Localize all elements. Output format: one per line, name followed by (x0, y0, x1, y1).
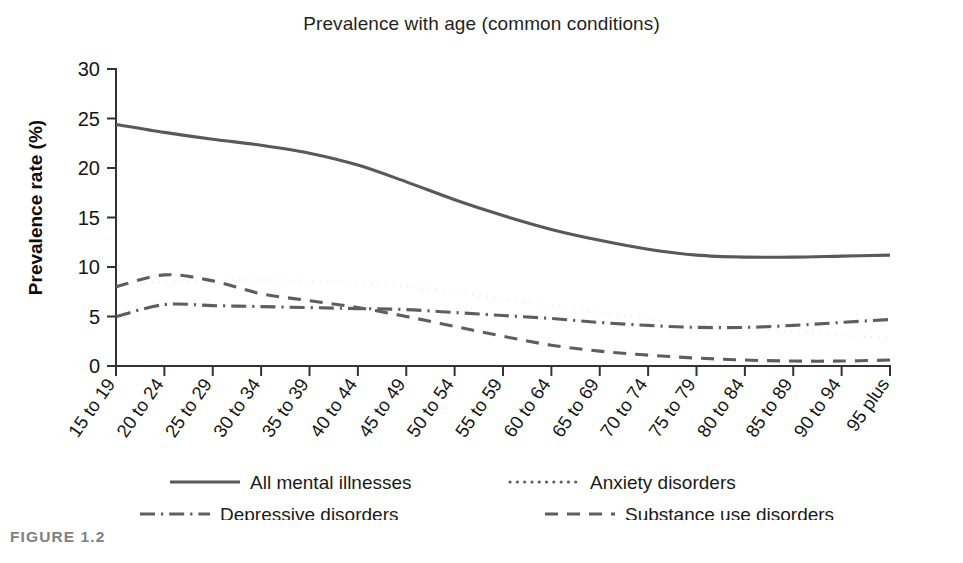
legend-item[interactable]: All mental illnesses (170, 472, 412, 493)
x-tick-label: 45 to 49 (354, 374, 410, 441)
x-axis: 15 to 1920 to 2425 to 2930 to 3435 to 39… (64, 366, 894, 441)
data-series-group (116, 124, 890, 361)
figure-caption: FIGURE 1.2 (10, 528, 105, 546)
x-tick-label: 55 to 59 (451, 374, 507, 441)
series-line (116, 280, 890, 338)
legend-label: Anxiety disorders (590, 472, 736, 493)
legend-item[interactable]: Anxiety disorders (510, 472, 736, 493)
x-tick-label: 30 to 34 (209, 374, 265, 441)
figure-container: Prevalence with age (common conditions) … (0, 0, 963, 563)
x-tick-label: 80 to 84 (693, 374, 749, 441)
legend-label: Depressive disorders (220, 504, 398, 520)
axis-titles: Prevalence rate (%) (25, 120, 46, 295)
y-tick-label: 30 (78, 58, 100, 80)
x-tick-label: 60 to 64 (499, 374, 555, 441)
x-tick-label: 35 to 39 (257, 374, 313, 441)
x-tick-label: 90 to 94 (789, 374, 845, 441)
x-tick-label: 20 to 24 (112, 374, 168, 441)
legend-item[interactable]: Depressive disorders (140, 504, 398, 520)
legend-label: All mental illnesses (250, 472, 412, 493)
x-tick-label: 15 to 19 (64, 374, 120, 441)
x-tick-label: 65 to 69 (547, 374, 603, 441)
y-tick-label: 10 (78, 256, 100, 278)
x-tick-label: 75 to 79 (644, 374, 700, 441)
y-axis: 051015202530 (78, 58, 116, 377)
legend-label: Substance use disorders (625, 504, 834, 520)
x-tick-label: 25 to 29 (160, 374, 216, 441)
series-line (116, 124, 890, 257)
series-line (116, 304, 890, 328)
y-tick-label: 25 (78, 108, 100, 130)
x-tick-label: 70 to 74 (596, 374, 652, 441)
x-tick-label: 40 to 44 (306, 374, 362, 441)
x-tick-label: 50 to 54 (402, 374, 458, 441)
series-line (116, 275, 890, 361)
legend-item[interactable]: Substance use disorders (545, 504, 834, 520)
y-tick-label: 0 (89, 355, 100, 377)
chart-legend: All mental illnessesAnxiety disordersDep… (140, 472, 834, 520)
y-tick-label: 15 (78, 207, 100, 229)
x-tick-label: 85 to 89 (741, 374, 797, 441)
x-tick-label: 95 plus (842, 374, 893, 435)
y-tick-label: 5 (89, 306, 100, 328)
chart-canvas: 051015202530 15 to 1920 to 2425 to 2930 … (0, 0, 963, 520)
y-tick-label: 20 (78, 157, 100, 179)
y-axis-title: Prevalence rate (%) (25, 120, 46, 295)
